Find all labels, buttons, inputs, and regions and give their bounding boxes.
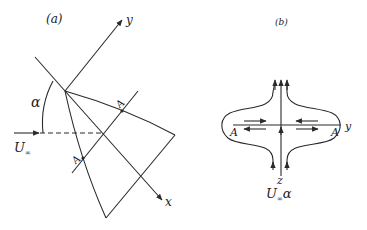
panel-a: (a) y x A A U∞ α	[14, 12, 175, 218]
angle-alpha-label: α	[31, 94, 41, 110]
panel-b: (b) A A y z U∞α	[222, 17, 352, 203]
angle-arc	[42, 81, 53, 133]
figure-canvas: (a) y x A A U∞ α (b)	[0, 0, 367, 230]
point-a-top-label: A	[113, 97, 127, 111]
panel-a-label: (a)	[46, 12, 63, 26]
point-a-bottom	[81, 156, 84, 159]
panel-b-label: (b)	[275, 17, 288, 27]
inflow-label: U∞α	[266, 186, 292, 203]
y-axis-arrow	[65, 20, 122, 91]
y-axis-label: y	[125, 13, 133, 27]
wing-lower-edge	[65, 91, 106, 218]
point-a-bottom-label: A	[69, 153, 83, 167]
right-point-a-label: A	[330, 126, 339, 139]
left-point-a-label: A	[229, 126, 238, 139]
freestream-label: U∞	[14, 140, 31, 157]
x-axis-label: x	[165, 195, 172, 209]
y-axis-label: y	[344, 120, 352, 133]
